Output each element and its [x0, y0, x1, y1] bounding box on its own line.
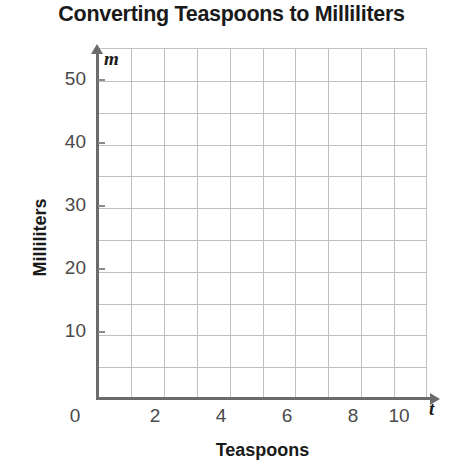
gridline-vertical [328, 49, 329, 398]
x-tick-label: 2 [135, 405, 175, 427]
gridline-horizontal [98, 81, 426, 82]
page-title: Converting Teaspoons to Milliliters [0, 2, 463, 27]
gridline-horizontal [98, 113, 426, 114]
gridline-vertical [131, 49, 132, 398]
y-tick-label: 40 [46, 131, 86, 153]
y-axis-title: Milliliters [30, 158, 51, 318]
plot-area [98, 48, 427, 398]
x-tick-label: 0 [55, 405, 95, 427]
y-tick-mark [98, 268, 105, 270]
gridline-vertical [263, 49, 264, 398]
y-tick-mark [98, 205, 105, 207]
y-tick-mark [98, 331, 105, 333]
x-tick-label: 6 [267, 405, 307, 427]
gridline-vertical [164, 49, 165, 398]
y-tick-label: 20 [46, 257, 86, 279]
gridline-horizontal [98, 145, 426, 146]
x-axis-title: Teaspoons [98, 440, 427, 461]
x-tick-label: 8 [333, 405, 373, 427]
gridline-vertical [197, 49, 198, 398]
gridline-vertical [361, 49, 362, 398]
y-tick-label: 30 [46, 194, 86, 216]
gridline-vertical [295, 49, 296, 398]
x-tick-label: 4 [201, 405, 241, 427]
x-axis-variable-label: t [429, 398, 434, 420]
y-tick-mark [98, 79, 105, 81]
gridline-vertical [230, 49, 231, 398]
grid-lines [98, 49, 426, 398]
y-axis-variable-label: m [104, 48, 119, 70]
x-axis-line [96, 397, 432, 400]
gridline-horizontal [98, 367, 426, 368]
x-tick-label: 10 [379, 405, 419, 427]
y-tick-label: 50 [46, 68, 86, 90]
gridline-horizontal [98, 304, 426, 305]
y-tick-label: 10 [46, 320, 86, 342]
gridline-horizontal [98, 176, 426, 177]
gridline-horizontal [98, 335, 426, 336]
gridline-vertical [394, 49, 395, 398]
y-axis-arrow-icon [91, 44, 103, 54]
gridline-horizontal [98, 208, 426, 209]
gridline-horizontal [98, 240, 426, 241]
y-tick-mark [98, 142, 105, 144]
y-axis-line [96, 52, 99, 399]
chart-page: Converting Teaspoons to Milliliters [0, 0, 463, 473]
gridline-horizontal [98, 272, 426, 273]
